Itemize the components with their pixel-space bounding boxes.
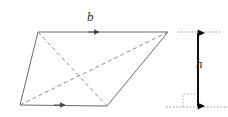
figure-canvas [0, 0, 228, 117]
height-label-h: h [196, 57, 203, 70]
parallelogram-diagonals [20, 32, 168, 106]
base-label-b: b [87, 10, 94, 23]
right-angle-marker-icon [183, 94, 196, 107]
base-direction-arrows [54, 32, 97, 105]
geometry-figure: b h [0, 0, 228, 117]
edge-right-side [107, 32, 168, 106]
diagonal-bottom-left-to-top-right [20, 32, 168, 105]
diagonal-top-left-to-bottom-right [38, 32, 107, 106]
edge-bottom-base [20, 105, 107, 106]
edge-left-side [20, 32, 38, 105]
